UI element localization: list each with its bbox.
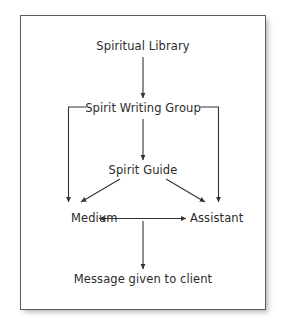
node-spirit-writing-group: Spirit Writing Group — [85, 102, 201, 115]
node-message-given-to-client: Message given to client — [74, 273, 212, 286]
node-spiritual-library: Spiritual Library — [96, 40, 189, 53]
node-medium: Medium — [71, 212, 118, 225]
node-spirit-guide: Spirit Guide — [109, 164, 178, 177]
diagram-figure: Spiritual Library Spirit Writing Group S… — [0, 0, 288, 332]
node-assistant: Assistant — [190, 212, 243, 225]
